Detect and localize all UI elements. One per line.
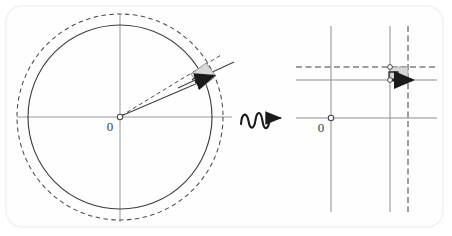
right-node-bottom-marker (388, 78, 393, 83)
left-origin-label: 0 (107, 119, 114, 134)
right-node-top-marker (388, 65, 393, 70)
left-origin-marker (117, 114, 122, 119)
right-origin-marker (328, 115, 333, 120)
right-shaded-cell (390, 67, 408, 80)
figure-root: 0 0 (0, 0, 452, 236)
figure-canvas: 0 0 (0, 0, 452, 236)
right-origin-label: 0 (318, 120, 325, 135)
